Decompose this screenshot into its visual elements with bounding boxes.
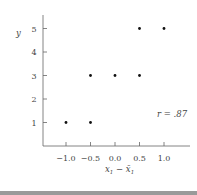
x-tick-label: −0.5 [81,154,100,163]
data-point [89,74,92,77]
y-axis-label: y [15,28,21,38]
x-axis-label: x1 − x̄1 [105,164,134,175]
x-tick-label: −1.0 [56,154,75,163]
bottom-border-bar [0,191,197,195]
data-point [138,27,141,30]
x-tick-label: 0.5 [133,154,146,163]
axes [43,15,190,146]
x-tick-label: 1.0 [158,154,171,163]
y-tick-label: 1 [31,119,36,128]
y-ticks: 12345 [31,25,47,128]
data-point [65,121,68,124]
data-point [89,121,92,124]
correlation-annotation: r = .87 [157,109,188,119]
y-tick-label: 2 [31,95,36,104]
x-tick-label: 0.0 [109,154,122,163]
y-tick-label: 5 [31,25,36,34]
data-point [163,27,166,30]
data-points [65,27,166,124]
data-point [138,74,141,77]
x-ticks: −1.0−0.50.00.51.0 [56,142,170,163]
data-point [114,74,117,77]
y-tick-label: 3 [31,72,36,81]
y-tick-label: 4 [31,48,36,57]
scatter-plot: 12345 −1.0−0.50.00.51.0 y x1 − x̄1 r = .… [0,0,197,195]
